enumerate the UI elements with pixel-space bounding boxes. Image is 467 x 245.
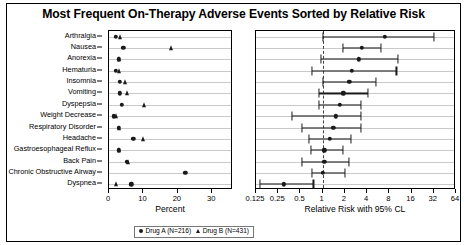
gridline bbox=[109, 173, 231, 174]
y-axis-label: Dyspepsia bbox=[62, 100, 96, 107]
relative-risk-point bbox=[322, 148, 326, 152]
relative-risk-point bbox=[282, 182, 286, 186]
confidence-interval-cap bbox=[367, 89, 368, 98]
confidence-interval-cap bbox=[322, 32, 323, 41]
y-axis-label: Gastroesophageal Reflux bbox=[14, 146, 96, 153]
relative-risk-point bbox=[341, 91, 345, 95]
gridline bbox=[256, 150, 454, 151]
x-axis-tick-label: 32 bbox=[429, 194, 437, 203]
data-point-circle bbox=[113, 34, 117, 38]
x-axis-tick-label: 2 bbox=[342, 194, 346, 203]
x-axis-tick-label: 8 bbox=[386, 194, 390, 203]
y-axis-tick bbox=[97, 126, 102, 127]
data-point-triangle bbox=[123, 79, 127, 84]
relative-risk-point bbox=[383, 34, 387, 38]
relative-risk-point bbox=[357, 57, 361, 61]
relative-risk-point bbox=[347, 80, 351, 84]
gridline bbox=[109, 184, 231, 185]
x-axis-tick-label: 16 bbox=[406, 194, 414, 203]
gridline bbox=[256, 162, 454, 163]
confidence-interval-cap bbox=[259, 180, 260, 189]
confidence-interval-cap bbox=[343, 44, 344, 53]
confidence-interval-cap bbox=[301, 157, 302, 166]
y-axis-label: Chronic Obstructive Airway bbox=[8, 168, 96, 175]
y-axis-label: Insomnia bbox=[66, 77, 96, 84]
y-axis-tick bbox=[97, 171, 102, 172]
relative-risk-axis-title: Relative Risk with 95% CL bbox=[255, 204, 455, 214]
y-axis-label: Hematuria bbox=[62, 66, 96, 73]
data-point-circle bbox=[183, 171, 187, 175]
confidence-interval-cap bbox=[375, 78, 376, 87]
gridline bbox=[109, 128, 231, 129]
x-axis-tick bbox=[366, 189, 367, 193]
confidence-interval-cap bbox=[320, 55, 321, 64]
data-point-triangle bbox=[141, 136, 145, 141]
percent-panel bbox=[108, 30, 232, 189]
confidence-interval-cap bbox=[313, 180, 314, 189]
relative-risk-point bbox=[320, 171, 324, 175]
circle-marker-icon bbox=[139, 229, 143, 233]
y-axis-label: Headache bbox=[63, 134, 96, 141]
data-point-triangle bbox=[117, 57, 121, 62]
relative-risk-x-axis: Relative Risk with 95% CL 0.1250.250.512… bbox=[255, 189, 455, 215]
confidence-interval-cap bbox=[308, 134, 309, 143]
y-axis-tick bbox=[97, 160, 102, 161]
data-point-triangle bbox=[169, 45, 173, 50]
data-point-triangle bbox=[118, 34, 122, 39]
x-axis-tick bbox=[322, 189, 323, 193]
confidence-interval-line bbox=[312, 172, 345, 173]
confidence-interval-line bbox=[311, 150, 343, 151]
relative-risk-point bbox=[360, 46, 364, 50]
x-axis-tick-label: 4 bbox=[364, 194, 368, 203]
confidence-interval-cap bbox=[312, 168, 313, 177]
gridline bbox=[256, 139, 454, 140]
triangle-marker-icon bbox=[196, 229, 200, 233]
data-point-triangle bbox=[114, 113, 118, 118]
gridline bbox=[109, 150, 231, 151]
x-axis-tick bbox=[277, 189, 278, 193]
relative-risk-point bbox=[337, 103, 341, 107]
x-axis-tick bbox=[255, 189, 256, 193]
x-axis-tick bbox=[433, 189, 434, 193]
y-axis-tick bbox=[97, 35, 102, 36]
data-point-circle bbox=[118, 91, 122, 95]
chart-legend: Drug A (N=216) Drug B (N=431) bbox=[134, 226, 254, 238]
gridline bbox=[256, 173, 454, 174]
gridline bbox=[109, 116, 231, 117]
confidence-interval-cap bbox=[344, 168, 345, 177]
y-axis-tick bbox=[97, 103, 102, 104]
data-point-circle bbox=[129, 182, 133, 186]
data-point-triangle bbox=[117, 125, 121, 130]
confidence-interval-cap bbox=[349, 157, 350, 166]
y-axis-tick bbox=[97, 92, 102, 93]
y-axis-tick bbox=[97, 47, 102, 48]
y-axis-label: Vomiting bbox=[68, 89, 96, 96]
x-axis-tick bbox=[344, 189, 345, 193]
confidence-interval-line bbox=[260, 184, 314, 185]
relative-risk-point bbox=[322, 159, 326, 163]
relative-risk-panel bbox=[255, 30, 455, 189]
x-axis-tick bbox=[108, 189, 109, 193]
y-axis-tick bbox=[97, 81, 102, 82]
data-point-circle bbox=[121, 46, 125, 50]
confidence-interval-line bbox=[292, 116, 361, 117]
gridline bbox=[109, 71, 231, 72]
gridline bbox=[109, 82, 231, 83]
x-axis-tick bbox=[211, 189, 212, 193]
confidence-interval-cap bbox=[380, 44, 381, 53]
data-point-triangle bbox=[117, 148, 121, 153]
y-axis-label: Back Pain bbox=[63, 157, 96, 164]
confidence-interval-cap bbox=[343, 146, 344, 155]
y-axis-tick bbox=[97, 137, 102, 138]
x-axis-tick-label: 10 bbox=[138, 194, 146, 203]
y-axis-label: Weight Decrease bbox=[40, 112, 96, 119]
legend-item-drug-a: Drug A (N=216) bbox=[139, 228, 191, 235]
x-axis-tick-label: 64 bbox=[451, 194, 459, 203]
confidence-interval-cap bbox=[360, 112, 361, 121]
confidence-interval-cap bbox=[360, 123, 361, 132]
data-point-triangle bbox=[126, 159, 130, 164]
relative-risk-point bbox=[350, 69, 354, 73]
reference-line bbox=[323, 31, 324, 188]
x-axis-tick bbox=[299, 189, 300, 193]
y-axis-tick bbox=[97, 69, 102, 70]
